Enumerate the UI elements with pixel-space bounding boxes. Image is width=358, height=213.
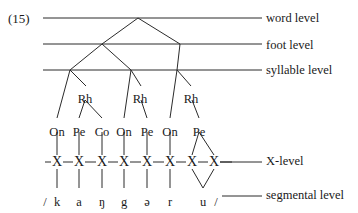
constituent-label-pe-2: Pe [141,126,154,139]
constituent-label-on-1: On [49,126,64,139]
constituent-label-on-2: On [116,126,131,139]
branch-syllable-3-to-onset-3 [170,70,177,118]
segment-seg-schwa: ə [144,196,150,209]
branch-x-7-to-segment-u [192,169,203,188]
rhyme-label-rh-1: Rh [78,93,93,106]
level-label-segmental: segmental level [266,189,344,202]
rhyme-label-rh-2: Rh [133,93,148,106]
x-slot-x-5: X [142,155,152,169]
constituent-label-on-3: On [162,126,177,139]
rhyme-label-rh-3: Rh [184,93,199,106]
branch-syllable-1-to-onset-1 [57,70,70,118]
segment-seg-ng: ŋ [99,196,105,209]
constituent-label-pe-1: Pe [73,126,86,139]
segment-seg-g: g [121,196,127,209]
level-label-word: word level [266,12,319,25]
tree-lines-svg [0,0,358,213]
constituent-label-co-1: Co [95,126,110,139]
branch-syllable-2-to-onset-2 [124,70,131,118]
segment-seg-u: u [200,196,206,209]
level-label-x: X-level [266,155,303,168]
level-label-foot: foot level [266,39,314,52]
transcription-mark-slash-close: / [214,196,217,209]
x-slot-x-8: X [209,155,219,169]
x-slot-x-6: X [165,155,175,169]
x-slot-x-1: X [52,155,62,169]
branch-word-to-foot-left [102,18,138,44]
segment-seg-r: r [168,196,172,209]
branch-x-8-to-segment-u [203,169,214,188]
segment-seg-a: a [76,196,82,209]
prosodic-tree-figure: (15) word level foot level syllable leve… [0,0,358,213]
transcription-mark-slash-open: / [43,196,46,209]
level-label-syllable: syllable level [266,64,332,77]
constituent-label-pe-3: Pe [193,126,206,139]
branch-syllable-3-to-rhyme-3 [177,70,191,86]
example-number: (15) [8,12,30,25]
branch-foot-left-to-syllable-2 [102,44,131,70]
x-slot-x-2: X [74,155,84,169]
x-slot-x-3: X [97,155,107,169]
branch-foot-left-to-syllable-1 [70,44,102,70]
branch-syllable-1-to-rhyme-1 [70,70,86,86]
branch-foot-right-to-syllable-3 [177,44,180,70]
segment-seg-k: k [54,196,60,209]
branch-syllable-2-to-rhyme-2 [131,70,141,86]
x-slot-x-7: X [187,155,197,169]
x-slot-x-4: X [119,155,129,169]
branch-word-to-foot-right [138,18,180,44]
